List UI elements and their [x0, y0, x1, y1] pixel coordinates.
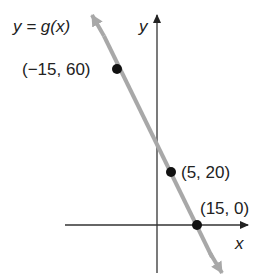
point-15-0 [192, 220, 202, 230]
function-label-text: y = g(x) [13, 17, 70, 36]
x-axis-label: x [235, 235, 244, 252]
y-axis-label: y [139, 18, 148, 35]
function-line [92, 15, 104, 36]
graph-of-g [0, 0, 260, 277]
point-label-15-0: (15, 0) [200, 200, 249, 217]
point-label-5-20: (5, 20) [181, 164, 230, 181]
point-5-20 [166, 167, 176, 177]
point-neg15-60 [112, 64, 122, 74]
function-line [210, 253, 222, 273]
function-label: y = g(x) [13, 18, 70, 35]
point-label-neg15-60: (−15, 60) [22, 61, 91, 78]
